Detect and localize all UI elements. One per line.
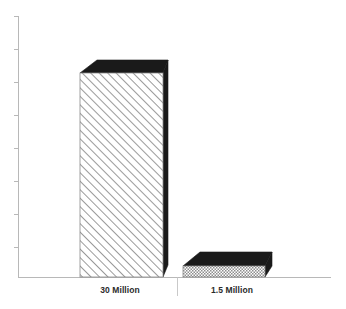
bar-30-million[interactable] [80, 60, 168, 277]
bar-30-million-side-face [163, 60, 168, 277]
category-label-1-5-million: 1.5 Million [172, 285, 292, 296]
bar-1-5-million[interactable] [183, 252, 272, 277]
y-axis-ticks [14, 17, 19, 248]
bar-1-5-million-front-face [183, 266, 265, 277]
category-label-30-million: 30 Million [60, 285, 180, 296]
bar-1-5-million-top-face [183, 252, 272, 266]
bar-chart: 30 Million 1.5 Million [0, 0, 346, 309]
chart-canvas [0, 0, 346, 309]
bar-30-million-front-face [80, 73, 163, 277]
bar-30-million-top-face [80, 60, 168, 73]
